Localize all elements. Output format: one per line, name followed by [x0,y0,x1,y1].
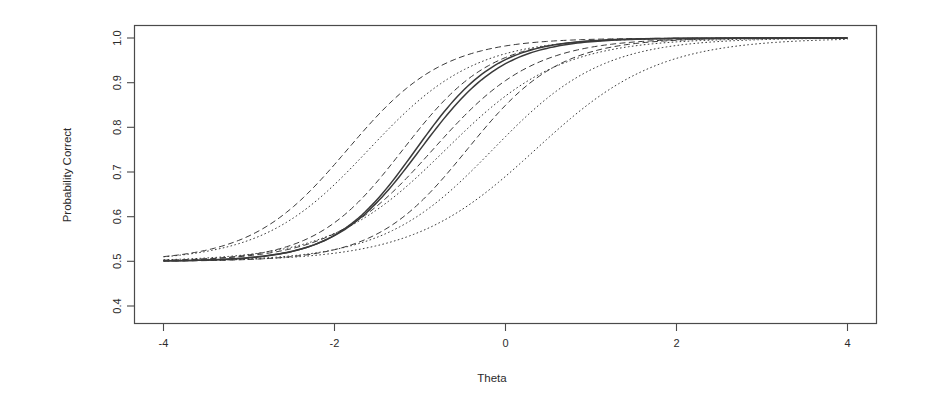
y-tick-label: 0.9 [111,75,123,90]
figure-background [0,0,927,403]
icc-figure: 1.0 0.9 0.8 0.7 0.6 0.5 0.4 -4 -2 0 2 4 … [0,0,927,403]
y-tick-label: 0.5 [111,254,123,269]
x-tick-label: 2 [673,337,679,349]
x-tick-label: 4 [844,337,850,349]
x-axis-title: Theta [477,372,507,384]
y-axis-title: Probability Correct [61,127,73,222]
x-tick-label: -2 [330,337,340,349]
y-tick-label: 1.0 [111,30,123,45]
x-tick-label: 0 [502,337,508,349]
y-tick-label: 0.8 [111,120,123,135]
y-tick-label: 0.4 [111,298,123,313]
y-tick-label: 0.6 [111,209,123,224]
icc-plot: 1.0 0.9 0.8 0.7 0.6 0.5 0.4 -4 -2 0 2 4 … [0,0,927,403]
x-tick-label: -4 [159,337,169,349]
y-tick-label: 0.7 [111,164,123,179]
